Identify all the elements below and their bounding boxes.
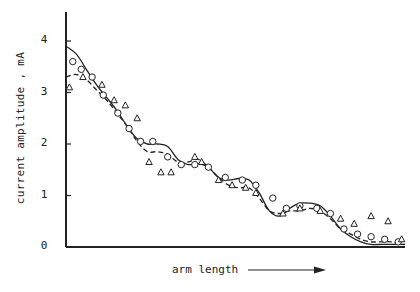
circle-marker-icon [327,210,333,216]
triangle-marker-icon [337,215,343,221]
axes [66,12,405,247]
y-tick-label: 1 [37,188,51,201]
series-layer [66,46,405,245]
circle-marker-icon [100,92,106,98]
chart-canvas [0,0,420,292]
circle-marker-icon [341,226,347,232]
triangle-marker-icon [168,169,174,175]
triangle-marker-icon [122,102,128,108]
x-axis-label: arm length [172,263,238,276]
triangle-marker-icon [111,97,117,103]
x-axis-arrow-icon [248,264,328,276]
triangle-marker-icon [385,218,391,224]
triangle-marker-icon [146,159,152,165]
circle-marker-icon [270,195,276,201]
triangle-marker-icon [80,74,86,80]
circle-marker-icon [253,182,259,188]
circle-marker-icon [239,177,245,183]
dashed-curve [66,74,405,244]
circle-marker-icon [78,66,84,72]
triangle-marker-icon [158,169,164,175]
circle-marker-icon [354,231,360,237]
circle-marker-icon [70,58,76,64]
circle-marker-icon [381,236,387,242]
circle-marker-icon [368,234,374,240]
triangle-marker-icon [192,153,198,159]
solid-curve [66,46,405,244]
y-axis-label: current amplitude , mA [14,52,27,204]
circle-marker-icon [165,154,171,160]
circle-marker-icon [89,74,95,80]
circle-marker-icon [115,110,121,116]
triangle-marker-icon [66,84,72,90]
circle-marker-icon [192,161,198,167]
triangle-marker-icon [134,115,140,121]
triangle-marker-icon [368,213,374,219]
circle-marker-icon [126,125,132,131]
y-tick-label: 0 [37,239,51,252]
circle-marker-icon [137,138,143,144]
circle-marker-icon [178,161,184,167]
triangle-marker-icon [99,81,105,87]
circle-marker-icon [150,138,156,144]
circle-marker-icon [205,164,211,170]
y-tick-label: 2 [37,136,51,149]
triangle-marker-icon [229,182,235,188]
y-tick-label: 4 [37,33,51,46]
circle-marker-icon [283,205,289,211]
y-tick-label: 3 [37,85,51,98]
triangle-marker-icon [351,220,357,226]
circle-marker-icon [222,174,228,180]
